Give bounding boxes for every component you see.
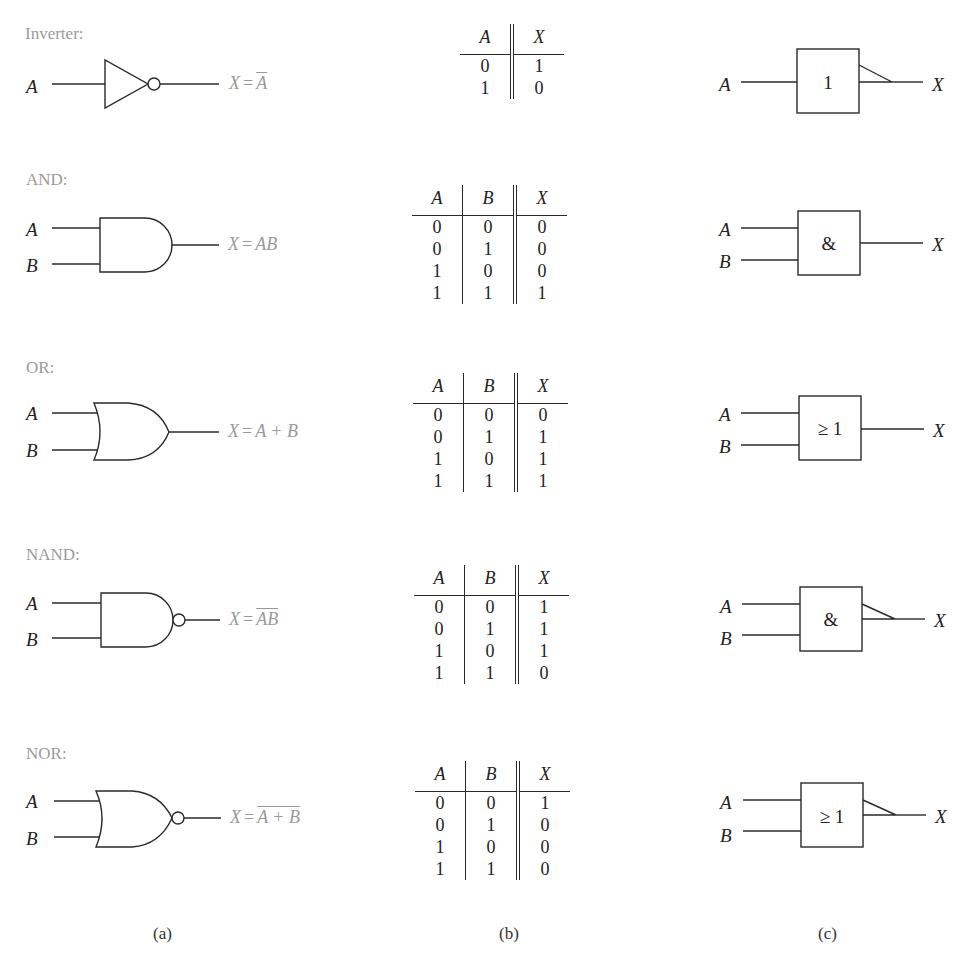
input-label-b: B: [26, 828, 38, 849]
cell: 0: [415, 792, 466, 815]
cell: 1: [516, 426, 568, 448]
output-label-x: X: [931, 74, 945, 95]
cell: 0: [412, 216, 463, 239]
iec-function-label: 1: [823, 72, 833, 93]
cell: 0: [465, 640, 518, 662]
cell: 1: [465, 662, 518, 684]
cell: 1: [415, 858, 466, 880]
cell: 0: [518, 858, 570, 880]
header-x: X: [518, 761, 570, 792]
expr-eq: =: [239, 421, 255, 441]
caption-c: (c): [818, 924, 837, 944]
header-a: A: [460, 24, 512, 55]
input-label-b: B: [26, 629, 38, 650]
truth-table-inverter: A X 0 1 1 0: [460, 24, 564, 99]
cell: 1: [415, 836, 466, 858]
header-b: B: [466, 761, 519, 792]
header-a: A: [413, 373, 464, 404]
expression-nand: X=AB: [229, 609, 278, 630]
buffer-triangle-icon: [105, 60, 148, 108]
cell: 0: [466, 836, 519, 858]
cell: 1: [466, 858, 519, 880]
expression-inverter: X=A: [229, 73, 267, 94]
nor-shape-icon: [96, 791, 172, 847]
header-b: B: [464, 373, 517, 404]
cell: 1: [518, 792, 570, 815]
inversion-bubble-icon: [148, 78, 160, 90]
truth-table-nor: A B X 001 010 100 110: [415, 761, 570, 880]
iec-function-label: ≥ 1: [818, 418, 843, 439]
nand-shape-icon: [101, 593, 173, 647]
cell: 0: [516, 404, 568, 427]
and-gate-symbol: A B: [24, 218, 219, 276]
cell: 0: [517, 662, 569, 684]
input-label-b: B: [719, 436, 731, 457]
cell: 0: [413, 404, 464, 427]
iec-inverter-symbol: A 1 X: [717, 49, 945, 113]
cell: 0: [464, 404, 517, 427]
expression-and: X=AB: [228, 234, 277, 255]
input-label-a: A: [24, 76, 38, 97]
input-label-b: B: [26, 440, 38, 461]
cell: 0: [460, 55, 512, 78]
header-x: X: [515, 185, 567, 216]
cell: 1: [517, 618, 569, 640]
negation-triangle-icon: [859, 65, 892, 82]
input-label-a: A: [718, 596, 732, 617]
input-label-b: B: [720, 628, 732, 649]
cell: 0: [465, 596, 518, 619]
expr-eq: =: [240, 609, 256, 629]
iec-and-symbol: A B & X: [717, 211, 945, 275]
cell: 1: [413, 470, 464, 492]
cell: 0: [515, 260, 567, 282]
cell: 1: [464, 470, 517, 492]
cell: 1: [516, 448, 568, 470]
expr-eq: =: [241, 807, 257, 827]
cell: 1: [464, 426, 517, 448]
input-label-b: B: [719, 251, 731, 272]
input-label-a: A: [24, 403, 38, 424]
expr-rhs: AB: [255, 234, 277, 254]
expr-eq: =: [240, 73, 256, 93]
output-label-x: X: [931, 234, 945, 255]
cell: 0: [512, 77, 564, 99]
cell: 1: [414, 662, 465, 684]
cell: 1: [460, 77, 512, 99]
cell: 1: [465, 618, 518, 640]
cell: 0: [415, 814, 466, 836]
cell: 1: [466, 814, 519, 836]
cell: 0: [515, 216, 567, 239]
cell: 0: [414, 596, 465, 619]
cell: 1: [412, 260, 463, 282]
input-label-b: B: [26, 255, 38, 276]
iec-function-label: &: [822, 233, 837, 254]
cell: 1: [412, 282, 463, 304]
input-label-b: B: [720, 825, 732, 846]
cell: 1: [413, 448, 464, 470]
expr-rhs: A + B: [255, 421, 298, 441]
cell: 0: [412, 238, 463, 260]
iec-nand-symbol: A B & X: [718, 587, 947, 651]
header-x: X: [516, 373, 568, 404]
expr-lhs: X: [229, 609, 240, 629]
expr-eq: =: [239, 234, 255, 254]
cell: 0: [518, 836, 570, 858]
input-label-a: A: [24, 593, 38, 614]
expression-or: X=A + B: [228, 421, 298, 442]
cell: 1: [517, 640, 569, 662]
cell: 1: [516, 470, 568, 492]
expr-rhs: A + B: [257, 807, 300, 827]
expr-lhs: X: [230, 807, 241, 827]
header-a: A: [412, 185, 463, 216]
cell: 0: [464, 448, 517, 470]
cell: 1: [517, 596, 569, 619]
truth-table-and: A B X 000 010 100 111: [412, 185, 567, 304]
input-label-a: A: [718, 792, 732, 813]
input-label-a: A: [24, 219, 38, 240]
expr-lhs: X: [228, 421, 239, 441]
or-shape-icon: [94, 403, 169, 460]
cell: 1: [463, 282, 516, 304]
header-a: A: [414, 565, 465, 596]
expr-lhs: X: [229, 73, 240, 93]
header-x: X: [512, 24, 564, 55]
